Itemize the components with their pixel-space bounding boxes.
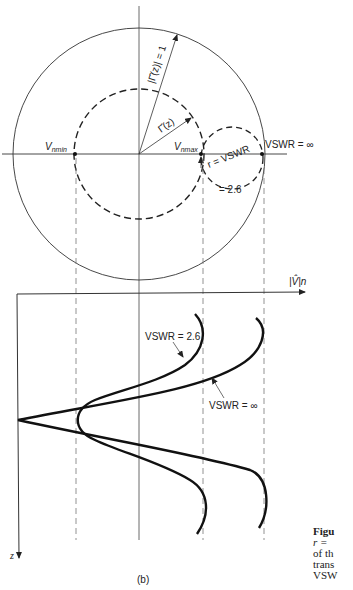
curve1-label: VSWR = 2.6: [145, 331, 201, 342]
unit-gamma-label: |Γ̂(z)| = 1: [145, 43, 168, 84]
curve2-leader: [212, 378, 224, 398]
vswr-inf-point: [260, 152, 264, 156]
projection-lines: [76, 158, 264, 540]
caption-fragment: Figu r = of th trans VSW: [313, 525, 338, 581]
z-axis-label: z: [9, 550, 14, 561]
v-axis-label: |V̂|n: [289, 274, 307, 287]
gamma-label: Γ̂(z): [156, 116, 176, 135]
vswr-inf-label: VSWR = ∞: [265, 139, 314, 150]
r-value-label: = 2.6: [219, 184, 242, 195]
curve2-label: VSWR = ∞: [209, 400, 258, 411]
vnmin-label: Vnmin: [45, 141, 67, 153]
r-vswr-label: r = VSWR: [206, 143, 252, 170]
standing-wave-plot: |V̂|n z VSWR = 2.6 VSWR = ∞: [9, 274, 307, 561]
vnmin-point: [73, 152, 77, 156]
curve1-leader: [173, 342, 183, 357]
gamma-plane: |Γ̂(z)| = 1 Γ̂(z) Vnmin Vnmax VSWR = ∞ r…: [2, 6, 314, 540]
z-axis: [17, 294, 19, 558]
caption-line-5: VSW: [313, 569, 338, 581]
figure-canvas: |Γ̂(z)| = 1 Γ̂(z) Vnmin Vnmax VSWR = ∞ r…: [0, 0, 353, 590]
vnmax-label: Vnmax: [174, 141, 198, 153]
curve-vswr-2-6: [78, 314, 206, 534]
curve-vswr-inf: [18, 318, 266, 528]
v-axis: [17, 292, 305, 294]
panel-label: (b): [137, 574, 149, 585]
vnmax-point: [199, 152, 203, 156]
